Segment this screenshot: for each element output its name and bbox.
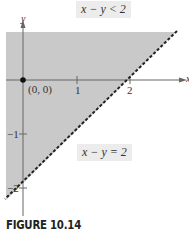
y-axis-label: y — [21, 13, 25, 24]
tick-label-y-neg2: −2 — [7, 182, 19, 194]
origin-label: (0, 0) — [28, 83, 52, 95]
tick-label-x-2: 2 — [127, 84, 133, 96]
inequality-label: x − y < 2 — [76, 1, 131, 18]
figure-caption: FIGURE 10.14 — [6, 218, 81, 232]
boundary-label: x − y = 2 — [77, 144, 132, 161]
tick-label-y-neg1: −1 — [7, 128, 19, 140]
x-axis-label: x — [186, 73, 189, 84]
tick-label-x-1: 1 — [75, 84, 81, 96]
graph-canvas — [0, 0, 189, 241]
origin-point — [20, 77, 26, 83]
